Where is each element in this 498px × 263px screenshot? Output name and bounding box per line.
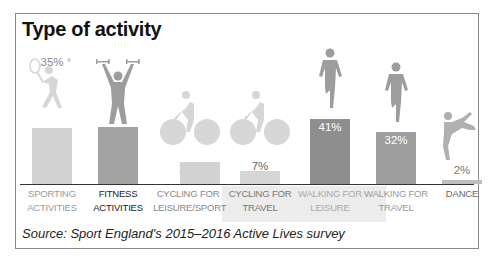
bar-cycling-leisure-fill — [180, 162, 220, 184]
value-label: 35% — [32, 56, 72, 68]
column-walking-leisure: 41% — [304, 14, 356, 184]
value-label: 32% — [376, 134, 416, 146]
category-label: SPORTINGACTIVITIES — [17, 187, 87, 215]
weightlifter-icon — [96, 58, 140, 128]
column-walking-travel: 32% — [370, 14, 422, 184]
category-label: DANCE — [427, 187, 497, 201]
cyclist-icon — [230, 90, 290, 150]
bar-cycling-travel — [240, 171, 280, 184]
x-axis-line — [20, 184, 474, 185]
column-fitness: 31% — [92, 14, 144, 184]
cyclist-icon — [160, 90, 220, 150]
bar-sporting — [32, 128, 72, 184]
category-label: CYCLING FORLEISURE/SPORT — [153, 187, 223, 215]
category-label: WALKING FORLEISURE — [295, 187, 365, 215]
dancer-icon — [440, 110, 476, 162]
source-caption: Source: Sport England's 2015–2016 Active… — [22, 226, 345, 241]
category-label: WALKING FORTRAVEL — [361, 187, 431, 215]
category-label: FITNESSACTIVITIES — [83, 187, 153, 215]
column-cycling-leisure: 15% — [164, 14, 216, 184]
column-dance: 2% — [436, 14, 488, 184]
value-label: 2% — [442, 164, 482, 176]
column-cycling-travel: 7% — [234, 14, 286, 184]
column-sporting: 35% — [26, 14, 78, 184]
walker-icon — [315, 48, 345, 110]
category-label: CYCLING FORTRAVEL — [225, 187, 295, 215]
walker-icon — [381, 62, 411, 124]
bar-fitness — [98, 127, 138, 184]
infographic-frame: Type of activity 35% 31% — [15, 13, 479, 249]
value-label: 41% — [310, 121, 350, 133]
